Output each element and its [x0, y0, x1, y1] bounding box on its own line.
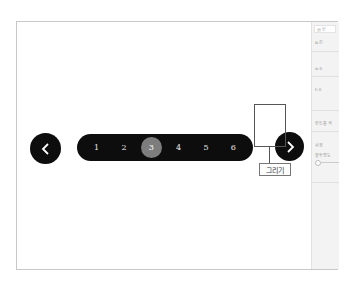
page-1[interactable]: 1 — [86, 137, 107, 158]
opacity-slider-track[interactable] — [320, 162, 339, 163]
chevron-left-icon — [40, 142, 52, 156]
page-2[interactable]: 2 — [113, 137, 134, 158]
divider — [312, 51, 339, 52]
page-6[interactable]: 6 — [223, 137, 244, 158]
width-field[interactable]: w 0 — [315, 66, 322, 71]
page-3-active[interactable]: 3 — [141, 137, 162, 158]
page-indicator: 1 2 3 4 5 6 — [77, 134, 253, 161]
callout-leader-line — [269, 147, 270, 163]
callout-label: 그리기 — [259, 163, 291, 176]
page-4[interactable]: 4 — [168, 137, 189, 158]
page-5[interactable]: 5 — [195, 137, 216, 158]
divider — [312, 182, 339, 183]
opacity-label: 불투명도 — [315, 152, 331, 158]
copy-row[interactable]: ⧉ 간 — [315, 39, 323, 45]
panel-top-button[interactable]: ▤ 반 — [314, 25, 336, 33]
callout-highlight-box — [254, 104, 286, 147]
divider — [312, 76, 339, 77]
editor-frame: 1 2 3 4 5 6 ▤ 반 ⧉ 간 w 0 h 0 컨트롤 색 사정 불투명… — [16, 21, 338, 270]
prev-button[interactable] — [30, 133, 61, 164]
properties-panel: ▤ 반 ⧉ 간 w 0 h 0 컨트롤 색 사정 불투명도 — [311, 22, 339, 269]
divider — [312, 110, 339, 111]
height-field[interactable]: h 0 — [315, 87, 321, 92]
divider — [312, 131, 339, 132]
opacity-slider-handle[interactable] — [315, 160, 321, 166]
control-color-label: 컨트롤 색 — [315, 120, 332, 126]
section-label: 사정 — [315, 142, 323, 148]
